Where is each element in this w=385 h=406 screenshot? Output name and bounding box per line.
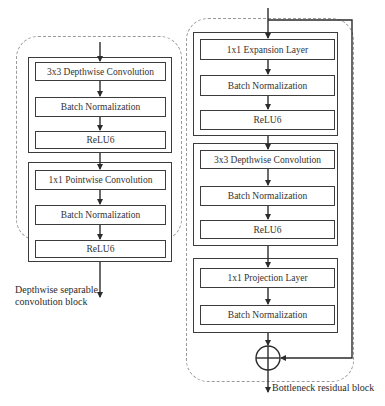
right-depthwise-conv-layer: 3x3 Depthwise Convolution	[200, 150, 335, 169]
right-batch-norm-layer-3: Batch Normalization	[200, 305, 335, 325]
right-block-caption: Bottleneck residual block	[272, 382, 385, 394]
right-batch-norm-layer-2: Batch Normalization	[200, 186, 335, 206]
right-relu6-layer-2: ReLU6	[200, 220, 335, 239]
left-depthwise-conv-layer: 3x3 Depthwise Convolution	[35, 62, 166, 81]
right-expansion-layer: 1x1 Expansion Layer	[200, 39, 335, 60]
right-relu6-layer-1: ReLU6	[200, 110, 335, 130]
left-relu6-layer-1: ReLU6	[35, 131, 166, 149]
left-batch-norm-layer-2: Batch Normalization	[35, 205, 166, 225]
left-batch-norm-layer-1: Batch Normalization	[35, 97, 166, 117]
left-caption-line-1: Depthwise separable	[15, 284, 125, 296]
left-block-caption: Depthwise separable convolution block	[15, 284, 125, 308]
left-caption-line-2: convolution block	[15, 296, 125, 308]
right-batch-norm-layer-1: Batch Normalization	[200, 75, 335, 96]
left-pointwise-conv-layer: 1x1 Pointwise Convolution	[35, 170, 166, 190]
left-relu6-layer-2: ReLU6	[35, 240, 166, 258]
right-projection-layer: 1x1 Projection Layer	[200, 268, 335, 288]
